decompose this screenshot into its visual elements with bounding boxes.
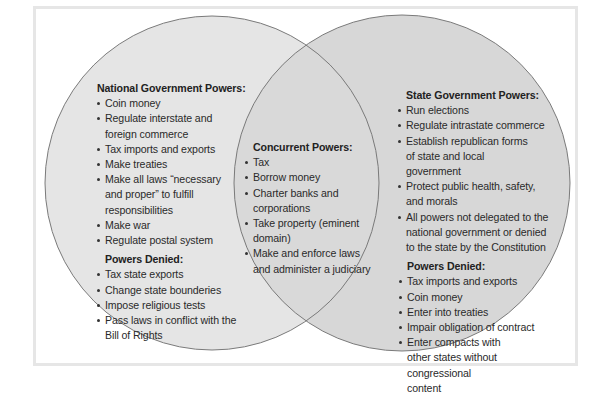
- list-item: Regulate intrastate commerce: [398, 118, 548, 133]
- list-item: Change state bounderies: [97, 283, 247, 298]
- list-item: Pass laws in conflict with the Bill of R…: [97, 313, 241, 343]
- list-item: Make and enforce laws and administer a j…: [245, 246, 377, 276]
- list-item: Establish republican forms of state and …: [398, 134, 536, 180]
- list-item: Take property (eminent domain): [245, 216, 363, 246]
- list-item: Make treaties: [97, 157, 247, 172]
- national-powers-list: Coin money Regulate interstate and forei…: [97, 96, 247, 248]
- list-item: Tax imports and exports: [399, 274, 548, 289]
- list-item: Make war: [97, 218, 247, 233]
- list-item: Coin money: [399, 290, 548, 305]
- state-denied-list: Tax imports and exports Coin money Enter…: [398, 274, 548, 396]
- list-item: Enter into treaties: [399, 305, 548, 320]
- list-item: Regulate interstate and foreign commerce: [97, 111, 225, 141]
- list-item: Coin money: [97, 96, 247, 111]
- list-item: Tax: [245, 155, 375, 170]
- national-heading: National Government Powers:: [97, 81, 247, 96]
- list-item: Impair obligation of contract: [399, 320, 548, 335]
- state-powers-list: Run elections Regulate intrastate commer…: [398, 103, 548, 255]
- national-denied-heading: Powers Denied:: [97, 252, 247, 267]
- national-powers-block: National Government Powers: Coin money R…: [97, 81, 247, 343]
- list-item: Impose religious tests: [97, 298, 247, 313]
- concurrent-powers-list: Tax Borrow money Charter banks and corpo…: [245, 155, 375, 277]
- state-denied-heading: Powers Denied:: [398, 259, 548, 274]
- list-item: Enter compacts with other states without…: [399, 335, 503, 396]
- state-heading: State Government Powers:: [398, 88, 548, 103]
- list-item: Run elections: [398, 103, 548, 118]
- state-powers-block: State Government Powers: Run elections R…: [398, 88, 548, 396]
- list-item: Make all laws “necessary and proper” to …: [97, 172, 233, 218]
- list-item: Tax state exports: [97, 267, 247, 282]
- national-denied-list: Tax state exports Change state bounderie…: [97, 267, 247, 343]
- list-item: Protect public health, safety, and moral…: [398, 179, 538, 209]
- list-item: All powers not delegated to the national…: [398, 210, 556, 256]
- list-item: Tax imports and exports: [97, 142, 247, 157]
- concurrent-powers-block: Concurrent Powers: Tax Borrow money Char…: [245, 140, 375, 277]
- list-item: Charter banks and corporations: [245, 186, 349, 216]
- concurrent-heading: Concurrent Powers:: [245, 140, 375, 155]
- list-item: Borrow money: [245, 170, 375, 185]
- list-item: Regulate postal system: [97, 233, 247, 248]
